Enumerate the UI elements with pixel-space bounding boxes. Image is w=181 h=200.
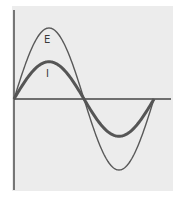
current-label: I	[46, 68, 49, 79]
waveform-diagram: E I	[0, 0, 181, 200]
voltage-label: E	[44, 34, 50, 45]
